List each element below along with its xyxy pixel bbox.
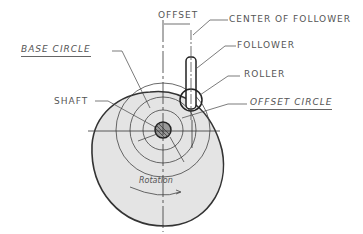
center-of-follower-label: CENTER OF FOLLOWER xyxy=(229,15,351,24)
offset-label: OFFSET xyxy=(158,11,198,20)
follower-label: FOLLOWER xyxy=(237,41,295,50)
shaft-label: SHAFT xyxy=(54,97,88,106)
rotation-label: Rotation xyxy=(139,177,173,185)
roller-label: ROLLER xyxy=(244,70,285,79)
offset-circle-label: OFFSET CIRCLE xyxy=(250,98,332,110)
cam-diagram xyxy=(0,0,363,234)
base-circle-label: BASE CIRCLE xyxy=(21,45,91,57)
